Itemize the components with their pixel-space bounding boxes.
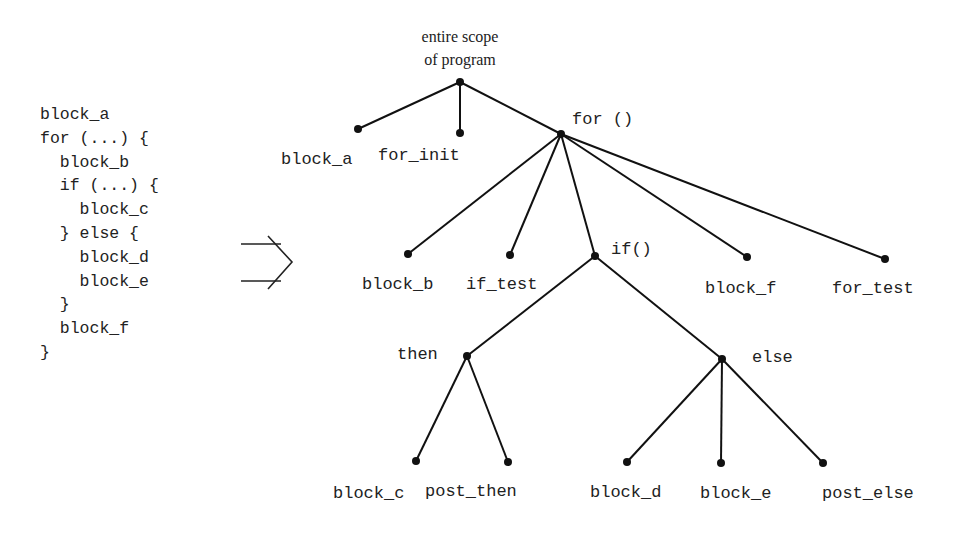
label-post-then: post_then bbox=[425, 482, 517, 501]
root-label-line2: of program bbox=[424, 51, 496, 69]
node-block-b bbox=[404, 250, 412, 258]
label-for-init: for_init bbox=[378, 146, 460, 165]
label-then: then bbox=[397, 345, 438, 364]
label-block-e: block_e bbox=[700, 484, 771, 503]
label-for: for () bbox=[572, 110, 633, 129]
node-root bbox=[456, 78, 464, 86]
node-block-f bbox=[743, 253, 751, 261]
tree-edges bbox=[358, 82, 885, 463]
node-post-else bbox=[819, 459, 827, 467]
node-then bbox=[463, 352, 471, 360]
label-block-a: block_a bbox=[281, 150, 352, 169]
node-if-test bbox=[506, 251, 514, 259]
node-block-a bbox=[354, 125, 362, 133]
scope-tree-diagram: entire scope of program block_a for_init… bbox=[0, 0, 971, 534]
label-block-c: block_c bbox=[333, 484, 404, 503]
node-block-c bbox=[412, 457, 420, 465]
node-else bbox=[718, 355, 726, 363]
node-if bbox=[591, 252, 599, 260]
implies-arrow-icon bbox=[241, 236, 292, 289]
node-for-test bbox=[881, 255, 889, 263]
tree-nodes bbox=[354, 78, 889, 467]
label-if: if() bbox=[611, 240, 652, 259]
label-post-else: post_else bbox=[822, 484, 914, 503]
root-label-line1: entire scope bbox=[422, 28, 499, 46]
label-block-f: block_f bbox=[705, 279, 776, 298]
tree-labels: entire scope of program block_a for_init… bbox=[281, 28, 914, 503]
label-if-test: if_test bbox=[466, 275, 537, 294]
label-else: else bbox=[752, 348, 793, 367]
node-block-d bbox=[623, 458, 631, 466]
label-block-d: block_d bbox=[590, 483, 661, 502]
node-post-then bbox=[504, 458, 512, 466]
node-for bbox=[557, 130, 565, 138]
node-for-init bbox=[456, 129, 464, 137]
label-block-b: block_b bbox=[362, 275, 433, 294]
label-for-test: for_test bbox=[832, 279, 914, 298]
node-block-e bbox=[717, 459, 725, 467]
